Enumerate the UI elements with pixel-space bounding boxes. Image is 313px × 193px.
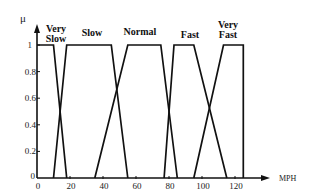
label-fast: Fast (181, 29, 200, 40)
label-slow: Slow (82, 27, 103, 38)
x-tick-labels: 0 20 40 60 80 100 120 (36, 181, 244, 191)
axes (37, 30, 264, 178)
svg-text:0.4: 0.4 (25, 120, 37, 130)
x-axis-arrow-icon (261, 175, 270, 181)
label-normal: Normal (124, 26, 157, 37)
label-very-slow-line2: Slow (46, 33, 67, 44)
curve-labels: Very Slow Slow Normal Fast Very Fast (46, 19, 238, 44)
membership-curves (37, 45, 243, 178)
fuzzy-membership-chart: 1 0.8 0.6 0.4 0.2 0 0 20 40 60 80 100 12… (0, 0, 313, 193)
svg-text:80: 80 (166, 181, 176, 191)
svg-text:0: 0 (31, 171, 36, 181)
svg-text:20: 20 (67, 181, 77, 191)
label-very-fast-line2: Fast (219, 29, 238, 40)
svg-text:1: 1 (28, 40, 33, 50)
y-axis-arrow-icon (34, 24, 40, 33)
svg-text:0: 0 (36, 181, 41, 191)
curve-very-fast (194, 45, 244, 178)
y-axis-title: μ (20, 12, 26, 24)
svg-text:0.6: 0.6 (25, 93, 37, 103)
svg-text:0.2: 0.2 (25, 146, 36, 156)
svg-text:100: 100 (196, 181, 210, 191)
curve-fast (164, 45, 227, 178)
y-tick-labels: 1 0.8 0.6 0.4 0.2 0 (25, 40, 37, 181)
svg-text:40: 40 (100, 181, 110, 191)
x-axis-title: MPH (279, 174, 297, 183)
svg-text:60: 60 (133, 181, 143, 191)
curve-very-slow (37, 45, 67, 178)
svg-text:0.8: 0.8 (25, 67, 37, 77)
svg-text:120: 120 (229, 181, 243, 191)
